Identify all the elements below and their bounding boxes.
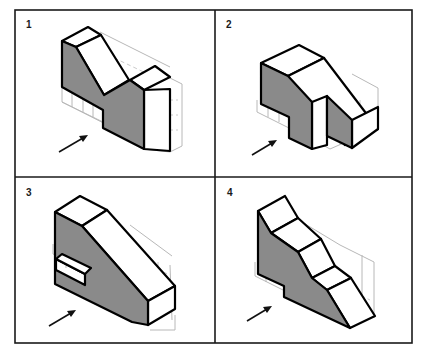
panel-2-number: 2: [226, 19, 232, 30]
isometric-figure: 1: [0, 0, 424, 352]
panel-1-right-post-side: [144, 89, 170, 151]
panel-3-number: 3: [26, 187, 32, 198]
panel-1: 1: [26, 19, 182, 152]
panel-3: 3: [26, 187, 175, 330]
panel-4: 4: [227, 187, 375, 328]
panel-4-number: 4: [227, 187, 233, 198]
panel-4-view-arrow: [247, 306, 272, 321]
panel-2-view-arrow: [252, 140, 277, 155]
panel-2: 2: [226, 19, 378, 155]
panel-2-slot-wall: [312, 96, 327, 149]
panel-1-number: 1: [26, 19, 32, 30]
panel-1-view-arrow: [59, 135, 88, 152]
panel-3-view-arrow: [49, 310, 76, 326]
